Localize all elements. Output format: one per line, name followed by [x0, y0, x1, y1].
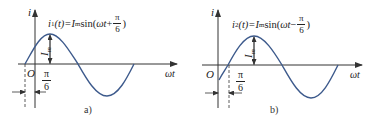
phase-label-a: π6: [42, 69, 51, 92]
equation-a: i1(t)=Imsin(ωt+π6): [48, 13, 126, 34]
phase-den-a: 6: [44, 82, 49, 92]
amplitude-label-a: Im: [39, 47, 53, 56]
eq-arg-b: ωt: [280, 19, 290, 30]
caption-a: a): [84, 104, 92, 115]
x-axis-label-a: ωt: [165, 69, 175, 79]
origin-label-b: O: [206, 69, 214, 80]
y-axis-label-b: i: [211, 7, 214, 18]
amplitude-label-b: Im: [243, 49, 257, 58]
phase-num-a: π: [44, 69, 49, 79]
x-axis-label-b: ωt: [350, 70, 360, 80]
eq-lhs-arg-a: (t)=: [54, 18, 71, 29]
y-axis-label-a: i: [28, 7, 31, 18]
eq-frac-a: π6: [113, 13, 121, 34]
eq-frac-den-a: 6: [115, 25, 120, 34]
eq-func-a: sin(: [80, 18, 96, 29]
eq-frac-num-a: π: [115, 13, 120, 22]
eq-sign-a: +: [106, 18, 112, 29]
phase-label-b: π6: [236, 70, 245, 93]
eq-frac-num-b: π: [299, 14, 304, 23]
amplitude-sub-a: m: [45, 47, 53, 52]
amplitude-sub-b: m: [249, 49, 257, 54]
caption-b: b): [270, 104, 278, 115]
eq-arg-a: ωt: [96, 18, 106, 29]
amplitude-letter-b: I: [242, 54, 254, 58]
phase-num-b: π: [238, 70, 243, 80]
eq-lhs-arg-b: (t)=: [238, 19, 255, 30]
origin-label-a: O: [27, 68, 35, 79]
eq-close-b: ): [306, 19, 310, 30]
equation-b: i2(t)=Imsin(ωt−π6): [232, 14, 310, 35]
phase-den-b: 6: [238, 83, 243, 93]
eq-close-a: ): [122, 18, 126, 29]
eq-sign-b: −: [290, 19, 296, 30]
eq-frac-b: π6: [297, 14, 305, 35]
amplitude-letter-a: I: [38, 52, 50, 56]
eq-func-b: sin(: [264, 19, 280, 30]
eq-frac-den-b: 6: [299, 26, 304, 35]
